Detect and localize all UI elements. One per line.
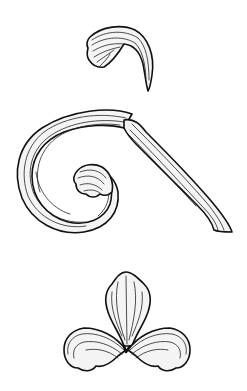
scroll-ornament bbox=[17, 110, 232, 233]
top-leaf-ornament bbox=[87, 27, 153, 91]
illustration-canvas bbox=[0, 0, 247, 391]
ornament-drawing bbox=[0, 0, 247, 391]
fleur-ornament bbox=[64, 272, 190, 371]
